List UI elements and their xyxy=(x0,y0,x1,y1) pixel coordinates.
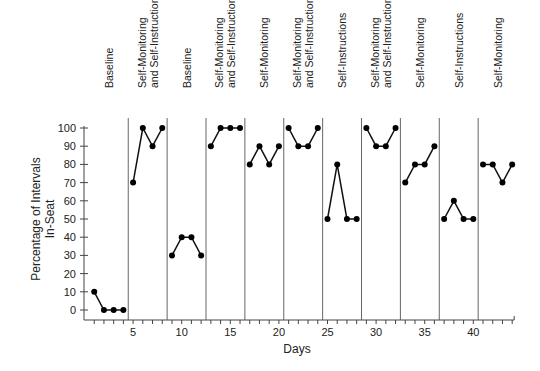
x-tick-label: 30 xyxy=(370,326,382,338)
data-point xyxy=(431,143,437,149)
series-line xyxy=(94,292,123,310)
series-line xyxy=(211,128,240,146)
y-tick-label: 60 xyxy=(64,195,76,207)
y-tick-label: 70 xyxy=(64,177,76,189)
single-subject-line-chart: Percentage of IntervalsIn-Seat 010203040… xyxy=(0,0,540,371)
data-point xyxy=(305,143,311,149)
x-tick-label: 5 xyxy=(130,326,136,338)
data-point xyxy=(422,161,428,167)
data-point xyxy=(499,180,505,186)
data-point xyxy=(286,125,292,131)
phase-change-lines xyxy=(128,118,478,320)
data-point xyxy=(101,307,107,313)
phase-label: Self-Monitoring xyxy=(258,17,270,88)
data-point xyxy=(393,125,399,131)
data-point xyxy=(334,161,340,167)
y-tick-label: 50 xyxy=(64,213,76,225)
x-axis: 510152025303540 xyxy=(84,316,514,338)
phase-label: Self-Monitoring xyxy=(414,17,426,88)
data-point xyxy=(130,180,136,186)
phase-label: and Self-Instructions xyxy=(381,0,393,88)
y-tick-label: 40 xyxy=(64,231,76,243)
phase-label: Self-Monitoring xyxy=(213,17,225,88)
data-point xyxy=(490,161,496,167)
data-point xyxy=(150,143,156,149)
y-axis-title: Percentage of IntervalsIn-Seat xyxy=(29,157,57,280)
x-tick-label: 10 xyxy=(176,326,188,338)
y-tick-label: 80 xyxy=(64,158,76,170)
x-tick-label: 40 xyxy=(467,326,479,338)
data-point xyxy=(412,161,418,167)
data-series xyxy=(91,125,515,313)
phase-label: Self-Monitoring xyxy=(369,17,381,88)
x-tick-label: 25 xyxy=(321,326,333,338)
data-point xyxy=(159,125,165,131)
phase-label: Baseline xyxy=(181,48,193,88)
data-point xyxy=(480,161,486,167)
data-point xyxy=(461,216,467,222)
data-point xyxy=(120,307,126,313)
phase-label: and Self-Instructions xyxy=(225,0,237,88)
phase-labels: BaselineSelf-Monitoringand Self-Instruct… xyxy=(103,0,504,88)
x-axis-title: Days xyxy=(283,342,310,356)
series-line xyxy=(405,146,434,182)
data-point xyxy=(266,161,272,167)
data-point xyxy=(295,143,301,149)
data-point xyxy=(354,216,360,222)
data-point xyxy=(256,143,262,149)
y-tick-label: 100 xyxy=(58,122,76,134)
phase-label: Self-Instructions xyxy=(453,13,465,88)
phase-label: and Self-Instructions xyxy=(303,0,315,88)
phase-label: Baseline xyxy=(103,48,115,88)
data-point xyxy=(470,216,476,222)
data-point xyxy=(315,125,321,131)
phase-label: Self-Monitoring xyxy=(492,17,504,88)
data-point xyxy=(237,125,243,131)
data-point xyxy=(373,143,379,149)
data-point xyxy=(451,198,457,204)
y-tick-label: 10 xyxy=(64,286,76,298)
series-line xyxy=(366,128,395,146)
data-point xyxy=(91,289,97,295)
series-line xyxy=(328,164,357,219)
y-tick-label: 20 xyxy=(64,268,76,280)
phase-label: Self-Monitoring xyxy=(136,17,148,88)
data-point xyxy=(325,216,331,222)
data-point xyxy=(509,161,515,167)
x-tick-label: 35 xyxy=(419,326,431,338)
data-point xyxy=(169,252,175,258)
series-line xyxy=(483,164,512,182)
series-line xyxy=(289,128,318,146)
data-point xyxy=(218,125,224,131)
data-point xyxy=(179,234,185,240)
y-tick-label: 90 xyxy=(64,140,76,152)
data-point xyxy=(198,252,204,258)
data-point xyxy=(383,143,389,149)
data-point xyxy=(247,161,253,167)
data-point xyxy=(188,234,194,240)
data-point xyxy=(140,125,146,131)
y-tick-label: 0 xyxy=(70,304,76,316)
series-line xyxy=(444,201,473,219)
data-point xyxy=(344,216,350,222)
y-tick-label: 30 xyxy=(64,249,76,261)
series-line xyxy=(250,146,279,164)
y-axis-title-line: In-Seat xyxy=(43,199,57,238)
data-point xyxy=(227,125,233,131)
data-point xyxy=(402,180,408,186)
data-point xyxy=(363,125,369,131)
y-axis-title-line: Percentage of Intervals xyxy=(29,157,43,280)
phase-label: Self-Monitoring xyxy=(291,17,303,88)
phase-label: Self-Instructions xyxy=(336,13,348,88)
series-line xyxy=(172,237,201,255)
y-axis: 0102030405060708090100 xyxy=(58,122,88,320)
data-point xyxy=(111,307,117,313)
x-tick-label: 20 xyxy=(273,326,285,338)
series-line xyxy=(133,128,162,183)
data-point xyxy=(276,143,282,149)
phase-label: and Self-Instructions xyxy=(148,0,160,88)
data-point xyxy=(208,143,214,149)
x-tick-label: 15 xyxy=(224,326,236,338)
data-point xyxy=(441,216,447,222)
